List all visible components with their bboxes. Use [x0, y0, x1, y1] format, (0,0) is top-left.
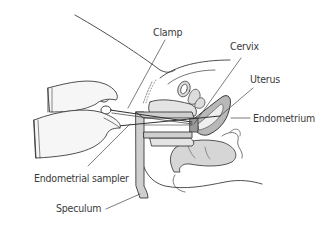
endometrial-biopsy-illustration: Clamp Cervix Uterus Endometrium Endometr… — [0, 0, 325, 231]
leader-clamp — [128, 40, 165, 108]
label-speculum: Speculum — [56, 202, 101, 214]
peritoneum-line — [168, 70, 215, 84]
label-cervix: Cervix — [230, 40, 259, 52]
label-endometrial-sampler: Endometrial sampler — [34, 172, 129, 184]
label-endometrium: Endometrium — [253, 112, 315, 124]
body-outline-abdomen — [160, 60, 230, 78]
leader-speculum — [106, 194, 140, 209]
pubic-region — [143, 82, 152, 104]
body-outline-upper — [75, 15, 175, 72]
vaginal-wall-lower — [150, 138, 194, 146]
body-outline-back — [173, 175, 185, 192]
label-uterus: Uterus — [250, 73, 280, 85]
label-clamp: Clamp — [153, 26, 182, 38]
